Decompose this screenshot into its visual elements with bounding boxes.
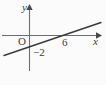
origin-label: O xyxy=(18,36,26,47)
y-axis-arrow-icon xyxy=(26,4,32,10)
y-axis-label: y xyxy=(22,2,27,13)
graph-canvas xyxy=(0,0,106,85)
y-intercept-label: −2 xyxy=(33,47,45,58)
x-intercept-label: 6 xyxy=(62,37,68,48)
linear-function-figure: y x O 6 −2 xyxy=(0,0,106,85)
x-axis-label: x xyxy=(93,36,98,47)
